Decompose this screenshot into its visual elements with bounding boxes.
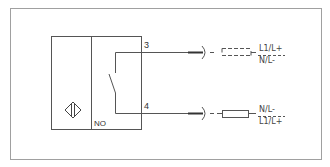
output-type-label: NO [94, 119, 106, 128]
terminal-3-top-supply: L1/L+ [259, 45, 282, 53]
terminal-3-label: 3 [144, 41, 149, 50]
load-resistor-icon [223, 111, 249, 118]
terminal-4-top-supply: N/L- [259, 106, 275, 114]
terminal-3-bottom-supply: N/L- [259, 57, 275, 65]
switch-contact-icon [109, 53, 164, 114]
dashed-load-icon [222, 49, 256, 56]
sensor-housing [52, 37, 142, 130]
inductive-sensor-icon [65, 102, 81, 118]
wiring-diagram [0, 0, 330, 167]
terminal-4-bottom-supply: L1/L+ [259, 118, 282, 126]
terminal-4-label: 4 [144, 102, 149, 111]
outer-frame [11, 9, 322, 160]
